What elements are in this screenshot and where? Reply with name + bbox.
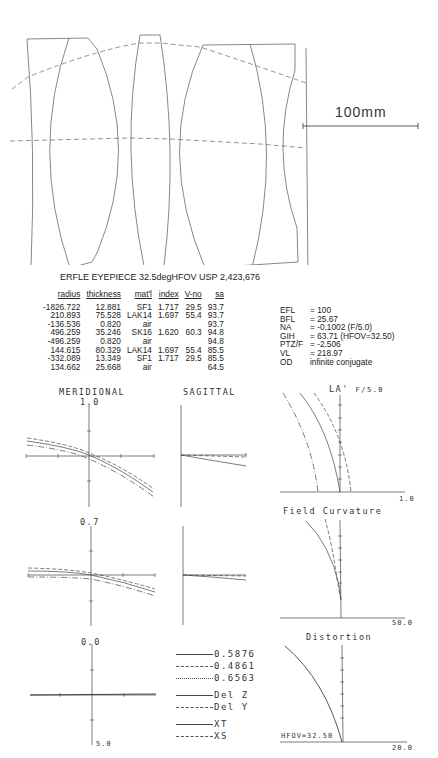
legend-item-xt: XT: [176, 718, 256, 730]
legend-item-del-z: Del Z: [176, 689, 256, 701]
legend-label: XS: [214, 731, 228, 741]
legend-item-del-y: Del Y: [176, 701, 256, 713]
dashed-line-swatch: [176, 707, 213, 708]
solid-line-swatch: [176, 724, 213, 725]
solid-line-swatch: [176, 695, 213, 696]
legend-item-wavelength-3: 0.6563: [176, 672, 256, 684]
solid-line-swatch: [176, 654, 213, 655]
aberration-plots: [0, 0, 438, 758]
legend-label: Del Z: [214, 690, 249, 700]
legend-label: 0.4861: [214, 661, 256, 671]
sagittal-fan-0-7: [183, 526, 246, 625]
dashdot-line-swatch: [176, 678, 213, 679]
sagittal-fan-1-0: [181, 405, 246, 507]
field-curvature-plot: [280, 519, 405, 618]
legend-item-wavelength-2: 0.4861: [176, 660, 256, 672]
meridional-fan-0-7: [28, 526, 155, 626]
legend-label: Del Y: [214, 702, 249, 712]
dashed-line-swatch: [176, 736, 213, 737]
legend-item-wavelength-1: 0.5876: [176, 648, 256, 660]
distortion-plot: [280, 645, 407, 742]
la-plot: [280, 393, 405, 492]
legend-label: 0.6563: [214, 673, 256, 683]
legend-label: XT: [214, 719, 228, 729]
ray-fan-0-0: [30, 644, 156, 745]
meridional-fan-1-0: [26, 405, 154, 507]
legend-label: 0.5876: [214, 649, 256, 659]
legend-item-xs: XS: [176, 730, 256, 742]
dashed-line-swatch: [176, 666, 213, 667]
plot-legend: 0.5876 0.4861 0.6563 Del Z Del Y XT XS: [176, 648, 256, 742]
